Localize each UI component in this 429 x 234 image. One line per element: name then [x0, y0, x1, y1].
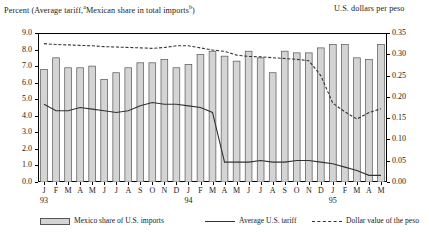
right-tick-0.10: 0.10	[392, 134, 424, 143]
bar-M-26	[354, 58, 361, 182]
bar-A-19	[269, 73, 276, 182]
bar-J-6	[113, 73, 120, 182]
bar-M-16	[233, 61, 240, 182]
left-axis-title-text-2: Mexican share in total imports	[86, 6, 189, 15]
bar-F-13	[197, 55, 204, 182]
left-tick-0.0: 0.0	[2, 177, 32, 186]
right-tick-0.05: 0.05	[392, 156, 424, 165]
x-tickmark	[116, 182, 117, 185]
x-tickmark	[381, 182, 382, 185]
bar-J-24	[329, 45, 336, 182]
legend-swatch-bar-icon	[40, 218, 70, 225]
left-tickmark	[35, 149, 38, 150]
left-tick-6.0: 6.0	[2, 78, 32, 87]
bar-O-21	[293, 53, 300, 182]
plot-area	[38, 33, 387, 182]
left-tickmark	[35, 165, 38, 166]
x-tickmark	[68, 182, 69, 185]
left-tickmark	[35, 50, 38, 51]
legend-label-solid: Average U.S. tariff	[239, 215, 297, 227]
x-tickmark	[261, 182, 262, 185]
x-tickmark	[321, 182, 322, 185]
left-tickmark	[35, 132, 38, 133]
bar-D-11	[173, 68, 180, 182]
right-tick-0.00: 0.00	[392, 177, 424, 186]
left-tick-7.0: 7.0	[2, 61, 32, 70]
left-tick-9.0: 9.0	[2, 28, 32, 37]
bar-J-18	[257, 58, 264, 182]
bar-A-15	[221, 56, 228, 182]
x-tickmark	[369, 182, 370, 185]
right-tickmark	[387, 76, 390, 77]
legend-swatch-dash-icon	[312, 221, 342, 222]
legend-swatch-solid-icon	[205, 221, 235, 222]
x-tickmark	[44, 182, 45, 185]
right-tickmark	[387, 97, 390, 98]
x-tickmark	[140, 182, 141, 185]
right-tick-0.35: 0.35	[392, 28, 424, 37]
right-tickmark	[387, 33, 390, 34]
bar-S-8	[137, 63, 144, 182]
x-tickmark	[297, 182, 298, 185]
bar-A-7	[125, 68, 132, 182]
legend-label-dash: Dollar value of the peso	[346, 215, 419, 227]
bar-A-27	[366, 59, 373, 182]
bar-F-1	[53, 58, 60, 182]
left-tickmark	[35, 182, 38, 183]
bar-A-3	[77, 68, 84, 182]
left-tickmark	[35, 83, 38, 84]
legend-item-solid: Average U.S. tariff	[205, 215, 297, 227]
left-tickmark	[35, 33, 38, 34]
chart-container: Percent (Average tariff,aMexican share i…	[0, 0, 429, 234]
x-year-label-94: 94	[178, 196, 198, 205]
right-tick-0.15: 0.15	[392, 113, 424, 122]
x-tickmark	[225, 182, 226, 185]
bar-O-9	[149, 63, 156, 182]
left-tick-8.0: 8.0	[2, 45, 32, 54]
x-tickmark	[201, 182, 202, 185]
bar-J-0	[41, 69, 48, 182]
x-year-label-93: 93	[34, 196, 54, 205]
left-tick-2.0: 2.0	[2, 144, 32, 153]
x-tickmark	[164, 182, 165, 185]
left-tick-1.0: 1.0	[2, 160, 32, 169]
x-tickmark	[80, 182, 81, 185]
x-tickmark	[237, 182, 238, 185]
left-tickmark	[35, 99, 38, 100]
chart-legend: Mexico share of U.S. importsAverage U.S.…	[40, 215, 429, 229]
bar-N-10	[161, 59, 168, 182]
right-tickmark	[387, 54, 390, 55]
x-tickmark	[104, 182, 105, 185]
right-tick-0.30: 0.30	[392, 49, 424, 58]
right-axis-title: U.S. dollars per peso	[334, 4, 405, 13]
x-tickmark	[249, 182, 250, 185]
x-tickmark	[273, 182, 274, 185]
right-tick-0.20: 0.20	[392, 92, 424, 101]
left-axis-title-text: Percent (Average tariff,	[4, 6, 83, 15]
bar-M-14	[209, 51, 216, 182]
right-tickmark	[387, 161, 390, 162]
x-tickmark	[309, 182, 310, 185]
left-tickmark	[35, 116, 38, 117]
left-tick-5.0: 5.0	[2, 94, 32, 103]
x-tickmark	[213, 182, 214, 185]
bar-M-4	[89, 66, 96, 182]
right-tickmark	[387, 139, 390, 140]
plot-svg	[38, 33, 387, 182]
bar-M-28	[378, 45, 385, 182]
left-tickmark	[35, 66, 38, 67]
left-axis-title: Percent (Average tariff,aMexican share i…	[4, 4, 195, 15]
x-tickmark	[333, 182, 334, 185]
legend-item-bar: Mexico share of U.S. imports	[40, 215, 164, 227]
bar-J-12	[185, 64, 192, 182]
x-tickmark	[92, 182, 93, 185]
x-tickmark	[152, 182, 153, 185]
left-tick-4.0: 4.0	[2, 111, 32, 120]
bar-J-5	[101, 79, 108, 182]
legend-label-bar: Mexico share of U.S. imports	[74, 215, 164, 227]
right-tickmark	[387, 182, 390, 183]
left-axis-title-paren: )	[192, 6, 195, 15]
bar-N-22	[305, 53, 312, 182]
right-tick-0.25: 0.25	[392, 71, 424, 80]
x-tickmark	[285, 182, 286, 185]
